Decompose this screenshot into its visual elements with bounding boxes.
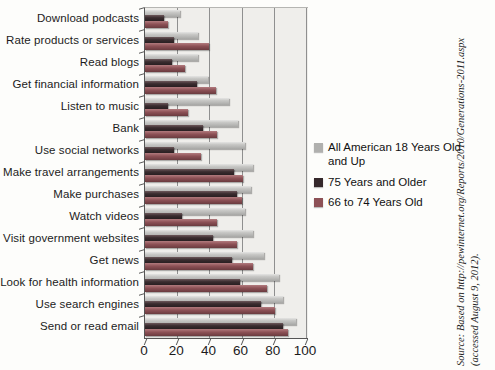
x-axis-tick-label: 60 — [233, 343, 248, 358]
x-axis-tick-label: 100 — [294, 343, 317, 358]
bar — [145, 65, 185, 72]
legend: All American 18 Years Old and Up75 Years… — [314, 141, 474, 217]
bar-group — [145, 316, 308, 338]
y-axis-tick — [139, 249, 144, 252]
category-axis: Download podcastsRate products or servic… — [0, 7, 139, 337]
bar — [145, 197, 242, 204]
bar — [145, 175, 243, 182]
y-axis-tick — [139, 315, 144, 318]
category-label: Make travel arrangements — [0, 161, 139, 183]
x-axis-labels: 020406080100 — [144, 343, 314, 361]
bar — [145, 109, 188, 116]
y-axis-tick — [139, 95, 144, 98]
bar — [145, 43, 209, 50]
legend-item: 75 Years and Older — [314, 176, 474, 190]
bar-group — [145, 8, 308, 30]
category-label: Get financial information — [0, 73, 139, 95]
y-axis-tick — [139, 293, 144, 296]
chart-page: Download podcastsRate products or servic… — [0, 0, 495, 370]
source-note-line1: Source: Based on http://pewinternet.org/… — [454, 6, 468, 366]
source-note-line2: (accessed August 9, 2012). — [468, 6, 482, 366]
bar-group — [145, 228, 308, 250]
y-axis-tick — [139, 161, 144, 164]
legend-label: All American 18 Years Old and Up — [328, 141, 474, 169]
bar — [145, 153, 201, 160]
bar — [145, 329, 288, 336]
x-axis-tick-label: 20 — [169, 343, 184, 358]
category-label: Listen to music — [0, 95, 139, 117]
category-label: Use search engines — [0, 293, 139, 315]
bar-group — [145, 162, 308, 184]
bar-group — [145, 52, 308, 74]
legend-swatch-icon — [314, 178, 323, 187]
bar-group — [145, 74, 308, 96]
bar-group — [145, 140, 308, 162]
x-axis-tick-label: 80 — [265, 343, 280, 358]
category-label: Watch videos — [0, 205, 139, 227]
bar — [145, 21, 168, 28]
bar-group — [145, 184, 308, 206]
category-label: Make purchases — [0, 183, 139, 205]
bar-group — [145, 96, 308, 118]
y-axis-tick — [139, 29, 144, 32]
x-axis-tick-label: 0 — [140, 343, 148, 358]
y-axis-tick — [139, 7, 144, 10]
y-axis-tick — [139, 117, 144, 120]
y-axis-tick — [139, 51, 144, 54]
legend-swatch-icon — [314, 198, 323, 207]
category-label: Rate products or services — [0, 29, 139, 51]
y-axis-tick — [139, 139, 144, 142]
legend-item: 66 to 74 Years Old — [314, 196, 474, 210]
category-label: Read blogs — [0, 51, 139, 73]
bar-group — [145, 250, 308, 272]
category-label: Download podcasts — [0, 7, 139, 29]
bar-group — [145, 272, 308, 294]
category-label: Get news — [0, 249, 139, 271]
y-axis-tick — [139, 183, 144, 186]
x-axis-tick-label: 40 — [201, 343, 216, 358]
bar — [145, 241, 237, 248]
category-label: Send or read email — [0, 315, 139, 337]
y-axis-tick — [139, 271, 144, 274]
legend-label: 75 Years and Older — [328, 176, 426, 190]
category-label: Use social networks — [0, 139, 139, 161]
bar-group — [145, 118, 308, 140]
legend-item: All American 18 Years Old and Up — [314, 141, 474, 169]
legend-label: 66 to 74 Years Old — [328, 196, 423, 210]
y-axis-tick — [139, 73, 144, 76]
y-axis-tick — [139, 227, 144, 230]
bar — [145, 285, 267, 292]
bar — [145, 131, 217, 138]
bar — [145, 219, 217, 226]
category-label: Look for health information — [0, 271, 139, 293]
bar-group — [145, 294, 308, 316]
bar — [145, 87, 216, 94]
bar — [145, 263, 253, 270]
plot-area — [144, 7, 308, 339]
legend-swatch-icon — [314, 143, 323, 152]
category-label: Bank — [0, 117, 139, 139]
bar-group — [145, 30, 308, 52]
bar-group — [145, 206, 308, 228]
source-note: Source: Based on http://pewinternet.org/… — [454, 6, 484, 366]
bar — [145, 307, 275, 314]
category-label: Visit government websites — [0, 227, 139, 249]
y-axis-tick — [139, 205, 144, 208]
